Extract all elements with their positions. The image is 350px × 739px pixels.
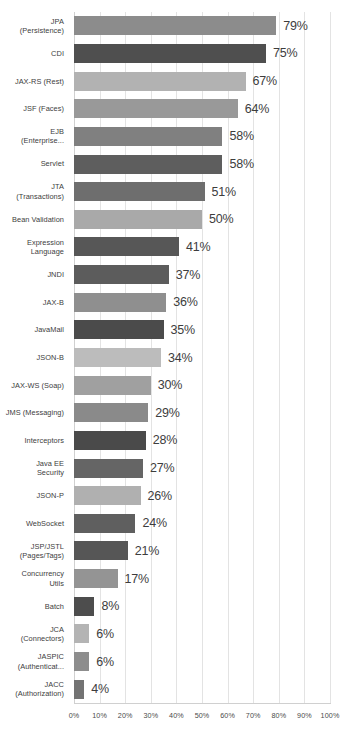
bar[interactable] [74,624,89,643]
bar-row: 58% [74,127,330,146]
bar-row: 50% [74,210,330,229]
x-tick-label: 100% [321,711,340,720]
bar[interactable] [74,182,205,201]
bar-row: 26% [74,486,330,505]
category-label: JASPIC (Authenticat... [18,652,64,670]
category-label: Expression Language [27,238,64,256]
category-label: JAX-RS (Rest) [15,77,64,86]
category-label: Servlet [41,159,64,168]
plot-area: 79%75%67%64%58%58%51%50%41%37%36%35%34%3… [74,12,330,703]
bar[interactable] [74,376,151,395]
category-label: EJB (Enterprise... [21,127,64,145]
bar-value-label: 58% [229,157,253,171]
category-label: JSON-B [37,353,64,362]
bar[interactable] [74,459,143,478]
bar-value-label: 64% [245,102,269,116]
bar-value-label: 28% [153,433,177,447]
category-label: JSON-P [37,491,64,500]
gridline [330,12,331,703]
bar[interactable] [74,652,89,671]
bar[interactable] [74,486,141,505]
x-tick-label: 90% [297,711,312,720]
bar[interactable] [74,541,128,560]
category-label: JAX-B [43,298,64,307]
bar-row: 8% [74,597,330,616]
bar[interactable] [74,210,202,229]
bar[interactable] [74,320,164,339]
category-label: JSP/JSTL (Pages/Tags) [20,542,64,560]
category-label: JAX-WS (Soap) [11,381,64,390]
category-label: JCA (Connectors) [21,625,64,643]
bar-value-label: 8% [101,599,119,613]
bar-value-label: 26% [148,489,172,503]
bar-row: 17% [74,569,330,588]
bar-value-label: 50% [209,212,233,226]
category-label: Interceptors [24,436,64,445]
bar-row: 4% [74,680,330,699]
bar[interactable] [74,680,84,699]
bar-value-label: 35% [171,323,195,337]
x-tick-label: 20% [118,711,133,720]
bar-value-label: 67% [253,74,277,88]
bar-value-label: 79% [283,19,307,33]
category-label: JNDI [47,270,64,279]
category-label: JTA (Transactions) [16,182,64,200]
bar-value-label: 36% [173,295,197,309]
bar-value-label: 51% [212,185,236,199]
bar-row: 21% [74,541,330,560]
category-label: WebSocket [26,519,64,528]
bar[interactable] [74,514,135,533]
bar-value-label: 75% [273,46,297,60]
category-label: CDI [51,49,64,58]
bar-row: 36% [74,293,330,312]
bar-value-label: 29% [155,406,179,420]
bar-row: 37% [74,265,330,284]
bar-row: 51% [74,182,330,201]
bar[interactable] [74,403,148,422]
x-tick-label: 70% [246,711,261,720]
bar[interactable] [74,16,276,35]
bar-value-label: 21% [135,544,159,558]
bar-row: 67% [74,72,330,91]
bar-value-label: 27% [150,461,174,475]
bar-value-label: 37% [176,268,200,282]
x-tick-label: 40% [169,711,184,720]
bar-row: 34% [74,348,330,367]
bar[interactable] [74,99,238,118]
x-axis-line [74,703,331,704]
category-label: JSF (Faces) [23,104,64,113]
bar[interactable] [74,72,246,91]
bar[interactable] [74,597,94,616]
bar-value-label: 58% [229,129,253,143]
x-tick-label: 10% [92,711,107,720]
bar[interactable] [74,237,179,256]
x-tick-label: 80% [271,711,286,720]
bar-value-label: 24% [142,516,166,530]
x-tick-label: 0% [69,711,80,720]
bar[interactable] [74,348,161,367]
bar-row: 41% [74,237,330,256]
bar[interactable] [74,569,118,588]
category-label: Concurrency Utils [22,569,64,587]
x-tick-label: 30% [143,711,158,720]
category-label: JACC (Authorization) [15,680,64,698]
bar-row: 35% [74,320,330,339]
bar[interactable] [74,293,166,312]
bar[interactable] [74,431,146,450]
bar[interactable] [74,155,222,174]
bar[interactable] [74,265,169,284]
category-label: Bean Validation [12,215,64,224]
category-label: JPA (Persistence) [20,17,64,35]
category-label: JMS (Messaging) [6,408,64,417]
bar-row: 6% [74,624,330,643]
bar[interactable] [74,44,266,63]
bar-row: 64% [74,99,330,118]
bar[interactable] [74,127,222,146]
x-tick-label: 60% [220,711,235,720]
bar-value-label: 17% [125,572,149,586]
category-label: JavaMail [34,325,64,334]
bar-row: 24% [74,514,330,533]
bar-chart: 79%75%67%64%58%58%51%50%41%37%36%35%34%3… [0,0,350,739]
bar-row: 30% [74,376,330,395]
bar-value-label: 4% [91,682,109,696]
